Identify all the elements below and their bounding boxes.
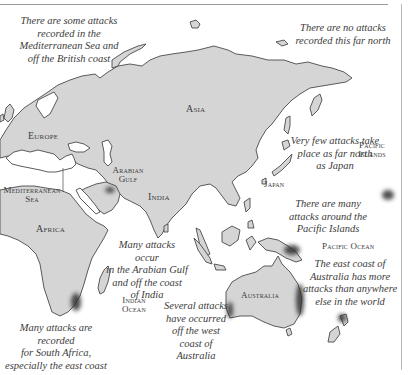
label-mediterranean-sea: Mediterranean Sea xyxy=(0,186,64,204)
annotation-arabian-gulf: Many attacks occur in the Arabian Gulf a… xyxy=(106,239,188,302)
japan-hokkaido xyxy=(282,140,290,150)
annotation-south-africa: Many attacks are recorded for South Afri… xyxy=(4,322,108,372)
hotspot-pacific-islands-b xyxy=(382,190,394,200)
hotspot-arabian-gulf xyxy=(105,187,115,193)
hotspot-south-africa xyxy=(71,293,81,311)
hotspot-pacific-islands-a xyxy=(284,245,300,255)
arctic-island xyxy=(190,20,200,28)
sakhalin-landmass xyxy=(284,116,290,134)
java-landmass xyxy=(214,264,226,270)
annotation-far-north: There are no attacks recorded this far n… xyxy=(283,22,403,47)
label-asia: Asia xyxy=(186,104,205,114)
annotation-mediterranean: There are some attacks recorded in the M… xyxy=(10,15,128,65)
label-pacific-ocean: Pacific Ocean xyxy=(322,242,374,251)
map-figure: Asia Europe Africa India Japan Australia… xyxy=(0,0,410,375)
ireland-landmass xyxy=(0,114,4,122)
label-japan: Japan xyxy=(264,180,284,189)
sulawesi-landmass xyxy=(246,236,256,250)
tasmania-landmass xyxy=(286,328,292,336)
annotation-east-australia: The east coast of Australia has more att… xyxy=(302,258,398,308)
philippines-landmass xyxy=(244,198,250,212)
philippines-landmass-2 xyxy=(248,220,254,228)
japan-honshu xyxy=(272,154,292,176)
label-africa: Africa xyxy=(36,224,65,234)
sri-lanka xyxy=(164,224,168,232)
annotation-japan: Very few attacks take place as far north… xyxy=(290,135,380,173)
label-arabian-gulf: Arabian Gulf xyxy=(106,166,150,184)
label-india: India xyxy=(148,192,170,202)
borneo-landmass xyxy=(222,226,240,246)
label-europe: Europe xyxy=(28,131,58,141)
new-zealand-south xyxy=(328,326,340,342)
label-australia: Australia xyxy=(241,291,279,300)
annotation-west-australia: Several attacks have occurred off the we… xyxy=(158,300,234,363)
annotation-pacific-islands: There are many attacks around the Pacifi… xyxy=(288,198,368,236)
hotspot-new-zealand xyxy=(338,314,346,322)
britain-landmass xyxy=(4,104,14,122)
kamchatka-landmass xyxy=(310,94,322,116)
